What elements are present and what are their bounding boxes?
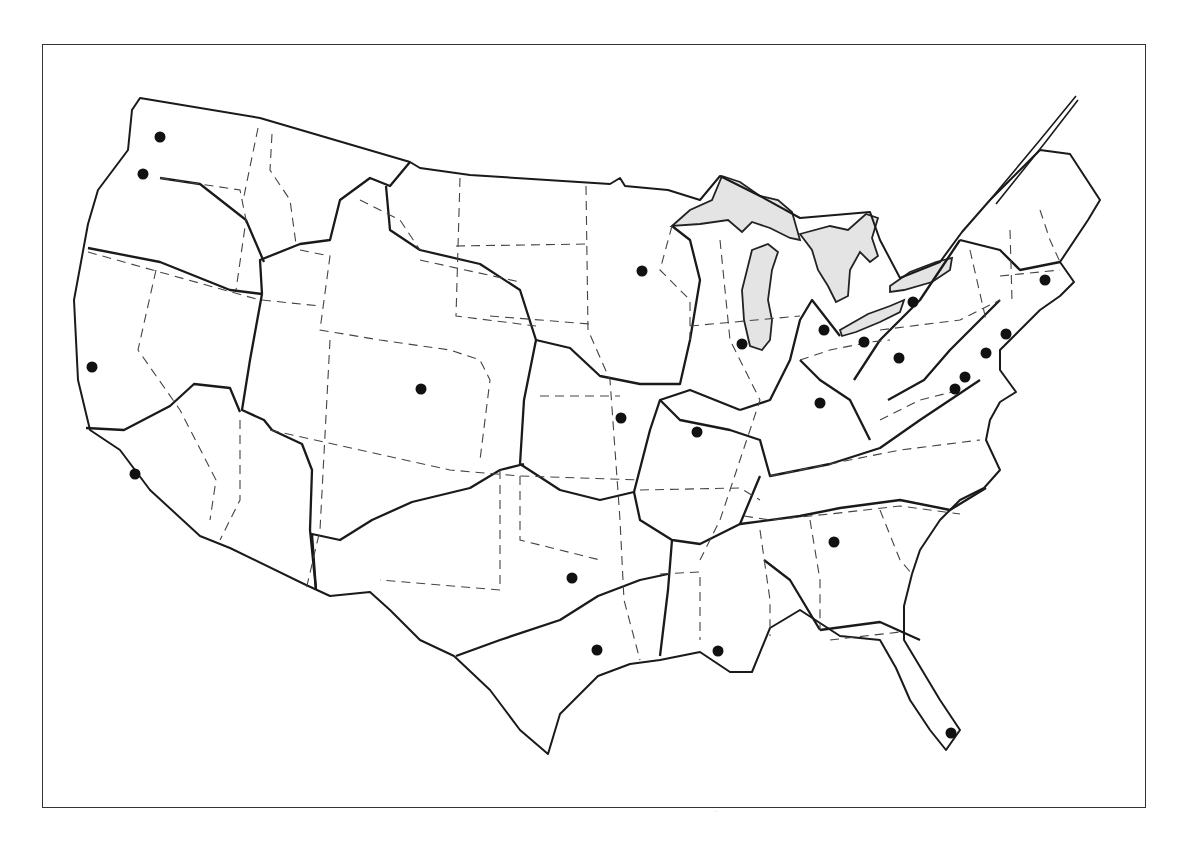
- city-dot: [138, 169, 149, 180]
- city-dot: [950, 384, 961, 395]
- city-dot: [829, 537, 840, 548]
- footer-mark: ·: [715, 808, 717, 814]
- city-dot: [637, 266, 648, 277]
- city-dot: [567, 573, 578, 584]
- city-dot: [87, 362, 98, 373]
- lake-erie: [840, 300, 904, 336]
- river: [996, 100, 1078, 204]
- national-outline: [74, 98, 1100, 754]
- city-dot: [859, 337, 870, 348]
- us-map: [0, 0, 1184, 842]
- city-dot: [815, 398, 826, 409]
- city-dot: [130, 469, 141, 480]
- city-dot: [960, 372, 971, 383]
- city-dot: [592, 645, 603, 656]
- city-dot: [946, 728, 957, 739]
- lake-michigan: [742, 244, 778, 350]
- city-dot: [713, 646, 724, 657]
- city-dot: [155, 132, 166, 143]
- city-dot: [692, 427, 703, 438]
- lake-huron: [800, 214, 878, 302]
- city-dot: [981, 348, 992, 359]
- river: [990, 96, 1076, 200]
- city-dot: [908, 297, 919, 308]
- city-dot: [819, 325, 830, 336]
- city-dot: [894, 353, 905, 364]
- city-dot: [616, 413, 627, 424]
- city-markers: [87, 132, 1051, 739]
- city-dot: [1040, 275, 1051, 286]
- city-dot: [737, 339, 748, 350]
- city-dot: [1001, 329, 1012, 340]
- city-dot: [416, 384, 427, 395]
